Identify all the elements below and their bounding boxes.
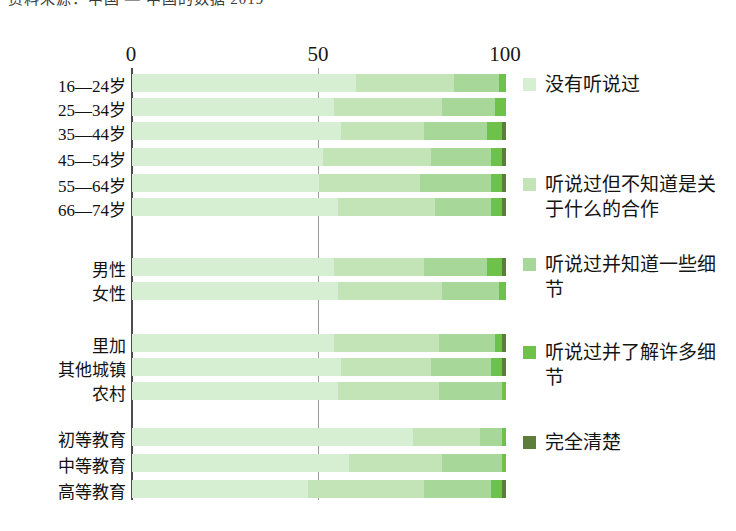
bar-segment	[132, 74, 356, 92]
bar-segment	[431, 148, 491, 166]
bar-row: 25—34岁	[0, 98, 736, 116]
stacked-bar	[132, 334, 506, 352]
bar-segment	[424, 122, 488, 140]
bar-segment	[420, 174, 491, 192]
bar-segment	[442, 98, 494, 116]
bar-segment	[435, 198, 491, 216]
bar-segment	[308, 480, 424, 498]
bar-segment	[132, 382, 338, 400]
legend-label: 听说过但不知道是关于什么的合作	[545, 172, 733, 222]
bar-segment	[424, 480, 491, 498]
stacked-bar	[132, 148, 506, 166]
bar-segment	[431, 358, 491, 376]
bar-segment	[334, 98, 442, 116]
bar-row-label: 16—24岁	[14, 72, 126, 97]
bar-segment	[132, 334, 334, 352]
bar-segment	[502, 334, 506, 352]
legend-label: 听说过并了解许多细节	[545, 340, 733, 390]
stacked-bar	[132, 98, 506, 116]
bar-segment	[356, 74, 453, 92]
bar-row-label: 66—74岁	[14, 196, 126, 221]
bar-segment	[132, 174, 319, 192]
bar-segment	[502, 148, 506, 166]
bar-segment	[491, 148, 502, 166]
bar-row: 中等教育	[0, 454, 736, 472]
bar-segment	[439, 334, 495, 352]
bar-row-label: 中等教育	[14, 452, 126, 477]
bar-row: 35—44岁	[0, 122, 736, 140]
legend-item[interactable]: 听说过并了解许多细节	[523, 340, 733, 390]
bar-segment	[502, 198, 506, 216]
bar-row-label: 55—64岁	[14, 172, 126, 197]
bar-segment	[338, 382, 439, 400]
bar-segment	[132, 198, 338, 216]
bar-segment	[502, 174, 506, 192]
bar-segment	[499, 74, 506, 92]
bar-row-label: 女性	[14, 280, 126, 305]
bar-segment	[338, 282, 443, 300]
legend-item[interactable]: 完全清楚	[523, 430, 621, 455]
stacked-bar	[132, 122, 506, 140]
bar-segment	[442, 454, 502, 472]
bar-segment	[439, 382, 503, 400]
bar-row: 45—54岁	[0, 148, 736, 166]
stacked-bar	[132, 74, 506, 92]
legend-label: 没有听说过	[545, 72, 640, 97]
legend-item[interactable]: 没有听说过	[523, 72, 640, 97]
bar-row: 高等教育	[0, 480, 736, 498]
bar-row-label: 初等教育	[14, 426, 126, 451]
stacked-bar	[132, 358, 506, 376]
bar-segment	[487, 258, 502, 276]
legend-item[interactable]: 听说过并知道一些细节	[523, 252, 733, 302]
bar-segment	[413, 428, 480, 446]
bar-segment	[442, 282, 498, 300]
legend-swatch-icon	[523, 346, 536, 359]
legend-label: 完全清楚	[545, 430, 621, 455]
bar-segment	[502, 358, 506, 376]
bar-segment	[132, 258, 334, 276]
bar-segment	[502, 122, 506, 140]
bar-row-label: 其他城镇	[14, 356, 126, 381]
bar-segment	[502, 454, 506, 472]
stacked-bar	[132, 428, 506, 446]
bar-segment	[132, 428, 413, 446]
stacked-bar	[132, 258, 506, 276]
bar-segment	[495, 334, 502, 352]
stacked-bar	[132, 282, 506, 300]
legend-swatch-icon	[523, 436, 536, 449]
bar-segment	[502, 258, 506, 276]
bar-segment	[132, 480, 308, 498]
bar-segment	[334, 258, 424, 276]
bar-segment	[132, 454, 349, 472]
legend-swatch-icon	[523, 178, 536, 191]
bar-segment	[319, 174, 420, 192]
bar-segment	[132, 358, 341, 376]
bar-segment	[502, 428, 506, 446]
bar-segment	[487, 122, 502, 140]
bar-segment	[341, 122, 423, 140]
bar-row-label: 25—34岁	[14, 96, 126, 121]
bar-segment	[132, 98, 334, 116]
bar-segment	[349, 454, 443, 472]
stacked-bar	[132, 198, 506, 216]
bar-row-label: 45—54岁	[14, 146, 126, 171]
bar-row-label: 高等教育	[14, 478, 126, 503]
bar-segment	[491, 174, 502, 192]
legend-item[interactable]: 听说过但不知道是关于什么的合作	[523, 172, 733, 222]
bar-segment	[499, 282, 506, 300]
stacked-bar	[132, 480, 506, 498]
stacked-bar-chart: 050100 16—24岁25—34岁35—44岁45—54岁55—64岁66—…	[0, 0, 736, 531]
legend-swatch-icon	[523, 78, 536, 91]
bar-segment	[132, 122, 341, 140]
legend-label: 听说过并知道一些细节	[545, 252, 733, 302]
bar-segment	[424, 258, 488, 276]
bar-segment	[132, 148, 323, 166]
stacked-bar	[132, 174, 506, 192]
bar-segment	[495, 98, 506, 116]
bar-segment	[338, 198, 435, 216]
bar-row-label: 里加	[14, 332, 126, 357]
bar-segment	[334, 334, 439, 352]
bar-segment	[132, 282, 338, 300]
bar-row: 初等教育	[0, 428, 736, 446]
bar-segment	[491, 358, 502, 376]
